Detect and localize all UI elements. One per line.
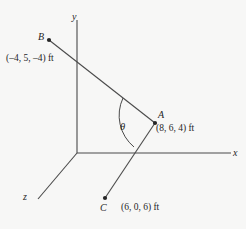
angle-label-theta: θ [120,122,125,133]
z-axis-label: z [23,192,27,202]
point-label-c: C [100,203,107,213]
x-axis-label: x [233,148,237,158]
point-coords-c: (6, 0, 6) ft [121,203,159,213]
y-axis-label: y [72,12,76,22]
diagram-svg [0,0,246,229]
point-label-a: A [158,110,164,120]
segment-ba [49,40,155,123]
figure-canvas: y x z B (–4, 5, –4) ft A (8, 6, 4) ft C … [0,0,246,229]
point-label-b: B [38,32,44,42]
point-coords-b: (–4, 5, –4) ft [6,54,54,64]
point-marker-c [103,196,107,200]
z-axis-line [38,153,77,199]
point-coords-a: (8, 6, 4) ft [156,124,194,134]
segment-ac [105,123,155,198]
point-marker-b [47,38,51,42]
